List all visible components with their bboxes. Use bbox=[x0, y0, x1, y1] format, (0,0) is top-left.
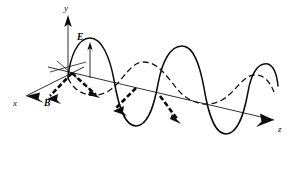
x-axis-arrowhead bbox=[26, 93, 44, 104]
z-axis-label: z bbox=[277, 124, 282, 134]
y-axis-label: y bbox=[63, 3, 68, 13]
b-field-label: B bbox=[43, 98, 50, 108]
z-axis-line bbox=[48, 67, 274, 120]
b-vector-2 bbox=[72, 73, 100, 98]
em-wave-diagram: z x y bbox=[0, 0, 300, 173]
b-vector-4 bbox=[160, 96, 181, 124]
axis-group: z x y bbox=[12, 3, 282, 134]
em-wave-figure: z x y bbox=[0, 0, 300, 173]
e-vector-1 bbox=[87, 42, 92, 78]
b-vector-4-shaft bbox=[160, 96, 178, 120]
b-vector-2-arrowhead bbox=[86, 86, 100, 98]
e-field-label: E bbox=[76, 32, 83, 42]
y-axis: y bbox=[63, 3, 72, 78]
z-axis-arrowhead bbox=[256, 114, 274, 128]
b-field-curve bbox=[68, 62, 274, 104]
b-vector-4-arrowhead bbox=[168, 110, 181, 124]
x-axis-label: x bbox=[12, 98, 17, 108]
